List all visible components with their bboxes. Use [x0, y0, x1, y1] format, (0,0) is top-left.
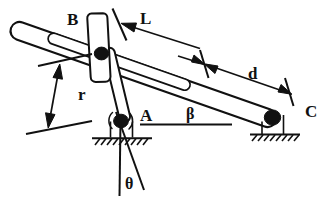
dimension-L-arrowhead — [121, 23, 137, 32]
label-pivot-A: A — [140, 106, 153, 125]
label-angle-beta: β — [186, 105, 194, 123]
ground-right-hatching — [252, 135, 299, 141]
joint-b-pin — [94, 47, 108, 60]
theta-vertical-ref — [120, 121, 121, 196]
ground-right — [250, 135, 300, 141]
label-length-d: d — [248, 64, 258, 83]
dimension-r-tick-lower — [26, 121, 92, 134]
dimension-r-arrowhead-lower — [46, 113, 56, 128]
dimension-L — [113, 9, 201, 49]
label-slider-B: B — [67, 10, 78, 29]
ground-left-hatching — [95, 139, 148, 146]
mechanism-diagram: B L d r A β C θ — [0, 0, 336, 199]
dimension-r-arrowhead-upper — [53, 64, 63, 79]
label-length-L: L — [140, 9, 151, 28]
joint-c — [262, 110, 284, 134]
label-angle-theta: θ — [125, 175, 133, 192]
label-pivot-C: C — [305, 102, 317, 121]
dimension-d-arrowhead-right — [278, 85, 292, 95]
ground-left — [92, 138, 152, 145]
joint-c-pin — [264, 110, 280, 125]
joint-b — [94, 47, 108, 60]
label-radius-r: r — [78, 85, 86, 104]
diagram-canvas: B L d r A β C θ — [0, 0, 336, 199]
